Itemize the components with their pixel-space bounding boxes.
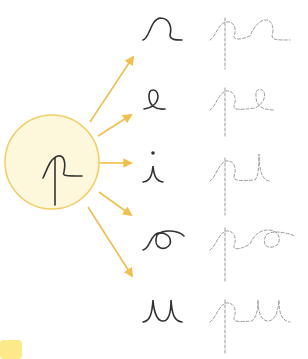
- cursive-a: [143, 18, 182, 40]
- traced-syllables: [210, 18, 295, 354]
- trace-pe: [210, 88, 275, 138]
- trace-pa: [210, 18, 290, 69]
- corner-badge-fragment: [0, 340, 22, 359]
- trace-pu: [210, 300, 290, 354]
- arrow-to-e: [98, 115, 131, 136]
- arrow-to-u: [88, 207, 132, 276]
- trace-po: [210, 228, 295, 283]
- cursive-i: [143, 152, 163, 182]
- trace-pi: [210, 154, 270, 215]
- arrow-to-o: [99, 192, 131, 215]
- syllable-worksheet: [0, 0, 308, 359]
- arrow-to-a: [90, 57, 133, 122]
- cursive-e: [144, 90, 165, 109]
- cursive-u: [143, 300, 182, 322]
- cursive-o: [143, 231, 184, 250]
- center-circle: [5, 115, 99, 209]
- vowel-glyphs: [143, 18, 184, 322]
